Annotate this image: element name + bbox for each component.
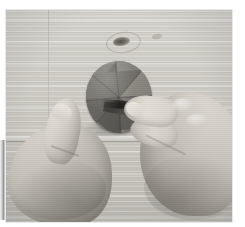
photograph bbox=[6, 10, 232, 222]
screenshot-root: Two hands creasing a sectored paper circ… bbox=[0, 0, 245, 227]
right-hand bbox=[124, 84, 232, 222]
right-hand-knuckle-1 bbox=[172, 98, 194, 112]
right-hand-shading bbox=[144, 154, 232, 220]
photo-caption: Two hands creasing a sectored paper circ… bbox=[0, 0, 1, 1]
right-hand-knuckle-2 bbox=[186, 114, 208, 127]
left-hand-shading bbox=[10, 158, 106, 220]
left-hand bbox=[6, 98, 118, 222]
page-edge-strip bbox=[0, 140, 5, 220]
